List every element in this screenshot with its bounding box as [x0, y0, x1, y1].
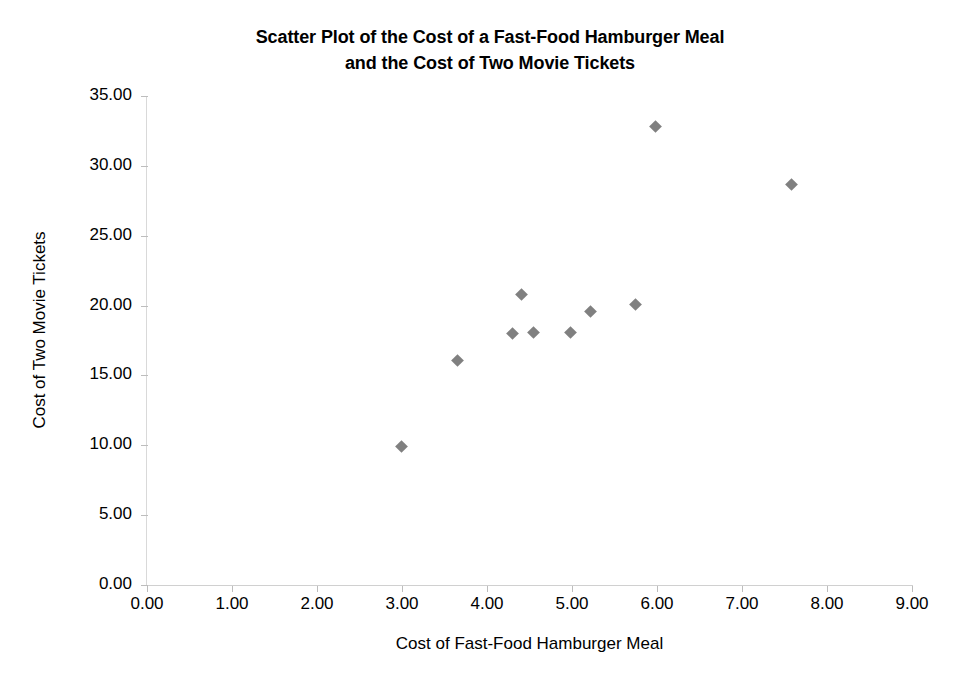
chart-title: Scatter Plot of the Cost of a Fast-Food … — [120, 24, 860, 76]
x-tick-mark — [657, 586, 658, 592]
x-tick-label: 6.00 — [617, 594, 697, 614]
x-tick-label: 2.00 — [277, 594, 357, 614]
y-tick-label: 15.00 — [62, 364, 132, 384]
x-tick-mark — [147, 586, 148, 592]
x-tick-label: 3.00 — [362, 594, 442, 614]
x-tick-label: 8.00 — [787, 594, 867, 614]
x-tick-label: 0.00 — [107, 594, 187, 614]
y-tick-label: 35.00 — [62, 85, 132, 105]
y-tick-label: 10.00 — [62, 434, 132, 454]
x-tick-mark — [912, 586, 913, 592]
x-tick-label: 1.00 — [192, 594, 272, 614]
x-tick-label: 9.00 — [872, 594, 952, 614]
y-tick-label: 0.00 — [62, 574, 132, 594]
x-tick-mark — [402, 586, 403, 592]
chart-title-line-1: Scatter Plot of the Cost of a Fast-Food … — [120, 24, 860, 50]
y-tick-label: 5.00 — [62, 504, 132, 524]
y-tick-label: 30.00 — [62, 155, 132, 175]
x-tick-label: 7.00 — [702, 594, 782, 614]
y-tick-label: 25.00 — [62, 225, 132, 245]
x-tick-mark — [487, 586, 488, 592]
x-tick-label: 5.00 — [532, 594, 612, 614]
scatter-chart: Scatter Plot of the Cost of a Fast-Food … — [0, 0, 963, 679]
x-tick-mark — [317, 586, 318, 592]
x-tick-mark — [232, 586, 233, 592]
x-tick-label: 4.00 — [447, 594, 527, 614]
x-tick-mark — [572, 586, 573, 592]
y-tick-label: 20.00 — [62, 295, 132, 315]
x-tick-mark — [827, 586, 828, 592]
x-tick-mark — [742, 586, 743, 592]
chart-title-line-2: and the Cost of Two Movie Tickets — [120, 50, 860, 76]
plot-area — [147, 96, 912, 585]
y-axis-title: Cost of Two Movie Tickets — [30, 180, 50, 480]
x-axis-line — [147, 585, 913, 586]
x-axis-title: Cost of Fast-Food Hamburger Meal — [147, 634, 912, 654]
